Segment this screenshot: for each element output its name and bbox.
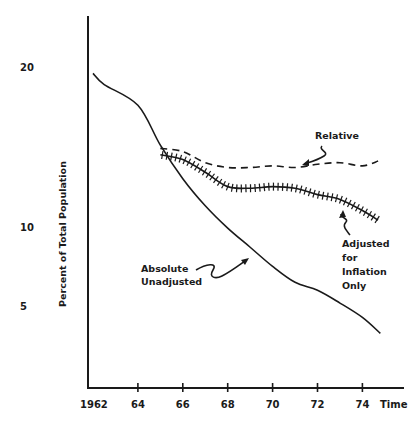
x-tick-label: 66 [176,399,190,410]
hatch-mark [331,193,333,201]
hatch-mark [210,174,215,180]
hatch-mark [213,176,218,182]
hatch-mark [322,192,323,200]
hatch-mark [171,153,172,161]
hatch-mark [287,183,288,191]
hatch-mark [264,183,265,191]
annotation-adjusted: Only [342,280,367,291]
x-axis-label: Time [380,399,408,410]
annotation-adjusted: Adjusted [342,238,390,249]
y-tick-label: 20 [20,62,34,73]
series-line-absolute-unadjusted [93,73,380,333]
arrowhead-icon [302,159,309,166]
arrowhead-icon [339,210,346,218]
x-tick-label: 70 [266,399,280,410]
hatch-mark [206,171,211,178]
hatch-mark [291,184,292,192]
hatch-mark [259,184,260,192]
hatch-mark [162,151,163,159]
hatch-mark [327,193,328,201]
hatch-mark [296,185,298,193]
hatch-mark [255,184,256,192]
annotation-adjusted: Inflation [342,266,387,277]
annotation-relative: Relative [315,130,359,141]
x-tick-label: 1962 [80,399,108,410]
x-tick-label: 68 [221,399,235,410]
y-axis-label: Percent of Total Population [57,161,68,307]
y-ticks: 20105 [20,62,34,312]
hatch-mark [375,216,379,223]
x-tick-label: 74 [355,399,369,410]
annotation-absolute: Unadjusted [141,276,202,287]
annotation-absolute: Absolute [141,263,188,274]
hatch-mark [166,152,167,160]
x-tick-label: 72 [311,399,325,410]
y-tick-label: 10 [20,222,34,233]
annotation-adjusted: for [342,252,358,263]
y-tick-label: 5 [20,301,27,312]
arrow-icon [196,261,245,278]
line-chart: 1962646668707274 20105 Percent of Total … [0,0,420,421]
x-tick-label: 64 [131,399,145,410]
hatch-mark [231,184,232,192]
series-group [93,73,380,333]
